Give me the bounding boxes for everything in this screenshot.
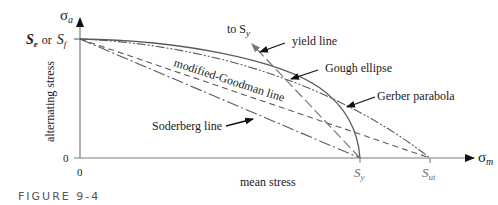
se-or-sf-label: SeorSf <box>26 32 68 49</box>
yield-line-pointer <box>260 43 285 52</box>
gough-ellipse-label: Gough ellipse <box>325 61 392 75</box>
yield-line-label: yield line <box>292 34 337 48</box>
figure-caption: FIGURE 9-4 <box>18 190 100 203</box>
soderberg-line <box>80 39 360 158</box>
x-axis-title: mean stress <box>240 175 296 189</box>
y-zero-label: 0 <box>63 152 69 164</box>
soderberg-label: Soderberg line <box>152 119 222 133</box>
soderberg-pointer <box>226 119 253 126</box>
to-sy-label: to Sy <box>227 22 250 38</box>
gerber-parabola-pointer <box>347 97 375 107</box>
sut-tick-label: Sut <box>422 165 436 182</box>
x-axis-symbol: σm <box>478 149 493 167</box>
sy-tick-label: Sy <box>354 165 365 182</box>
gerber-parabola-label: Gerber parabola <box>377 89 455 103</box>
x-zero-label: 0 <box>77 166 83 178</box>
y-axis-title: alternating stress <box>43 61 57 142</box>
fatigue-failure-diagram: σa σm SeorSf 0 0 alternating stress mean… <box>0 0 498 205</box>
y-axis-symbol: σa <box>60 7 73 25</box>
